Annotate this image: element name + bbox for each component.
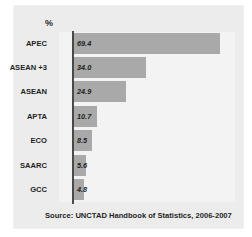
- bar-value-label: 69.4: [77, 32, 91, 55]
- bar-row: ASEAN +334.0: [14, 56, 243, 79]
- bar-row: ECO8.5: [14, 129, 243, 152]
- bar-value-label: 10.7: [77, 105, 91, 128]
- bar-value-label: 34.0: [77, 56, 91, 79]
- category-label-gcc: GCC: [30, 178, 47, 201]
- category-label-eco: ECO: [31, 129, 47, 152]
- bar-row: GCC4.8: [14, 178, 243, 201]
- chart-figure: Sciences Po / CERI et Atelier de cartogr…: [0, 0, 252, 237]
- bar-row: ASEAN24.9: [14, 80, 243, 103]
- category-label-saarc: SAARC: [20, 154, 47, 177]
- bar-row: SAARC5.6: [14, 154, 243, 177]
- bar-row: APTA10.7: [14, 105, 243, 128]
- chart-panel: % APEC69.4ASEAN +334.0ASEAN24.9APTA10.7E…: [14, 6, 243, 228]
- category-label-apta: APTA: [27, 105, 47, 128]
- bar-row: APEC69.4: [14, 32, 243, 55]
- bar-value-label: 5.6: [77, 154, 87, 177]
- category-label-asean-3: ASEAN +3: [10, 56, 47, 79]
- bar-value-label: 8.5: [77, 129, 87, 152]
- source-note: Source: UNCTAD Handbook of Statistics, 2…: [45, 211, 232, 220]
- category-label-apec: APEC: [26, 32, 47, 55]
- category-label-asean: ASEAN: [20, 80, 47, 103]
- bar-value-label: 24.9: [77, 80, 91, 103]
- unit-label: %: [45, 18, 53, 28]
- bar-apec: [74, 33, 220, 54]
- bar-value-label: 4.8: [77, 178, 87, 201]
